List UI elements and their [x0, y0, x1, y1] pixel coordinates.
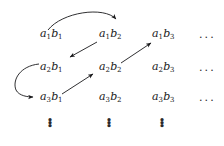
column-ellipsis-3: ••• — [156, 119, 168, 129]
cell-a1b1: a1b1 — [40, 28, 63, 39]
arrow-a1b2-to-a2b1 — [70, 42, 97, 57]
row-ellipsis-1: ... — [199, 29, 216, 40]
cell-a1b2: a1b2 — [99, 28, 122, 39]
row-ellipsis-3: ... — [199, 92, 216, 103]
arrow-a2b2-to-a1b3 — [121, 43, 151, 63]
cell-a1b3: a1b3 — [152, 28, 175, 39]
cell-a2b1: a2b1 — [40, 61, 63, 72]
cell-a3b1: a3b1 — [40, 91, 63, 102]
figure-canvas: a1b1 a1b2 a1b3 ... a2b1 a2b2 a2b3 ... a3… — [0, 0, 224, 146]
arrow-a3b1-to-a2b2 — [62, 74, 93, 94]
arrow-a2b1-to-a3b1 — [15, 64, 39, 97]
row-ellipsis-2: ... — [199, 62, 216, 73]
cell-a3b3: a3b3 — [152, 91, 175, 102]
column-ellipsis-2: ••• — [103, 119, 115, 129]
column-ellipsis-1: ••• — [44, 119, 56, 129]
cell-a2b2: a2b2 — [99, 61, 122, 72]
cell-a3b2: a3b2 — [99, 91, 122, 102]
cell-a2b3: a2b3 — [152, 61, 175, 72]
